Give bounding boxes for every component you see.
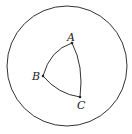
arc-bc xyxy=(43,76,80,97)
label-b: B xyxy=(31,70,40,83)
diagram-canvas: A B C xyxy=(0,0,132,134)
label-c: C xyxy=(77,99,86,112)
arc-ab xyxy=(43,43,72,76)
point-c xyxy=(79,96,82,99)
label-a: A xyxy=(66,31,75,44)
arc-ac xyxy=(72,43,81,97)
point-b xyxy=(42,75,45,78)
outer-circle xyxy=(7,6,127,126)
